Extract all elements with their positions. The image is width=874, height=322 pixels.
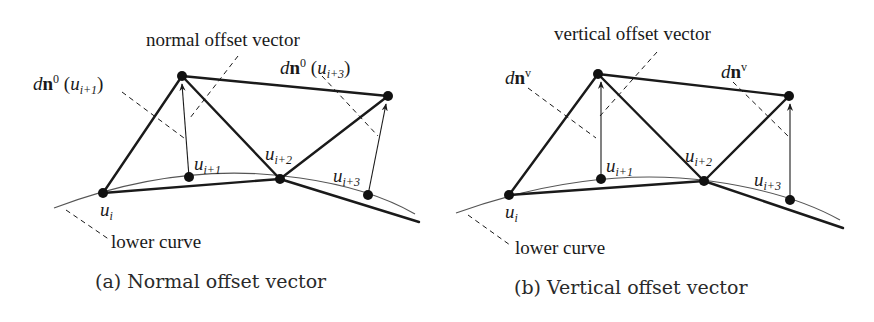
point-ui2 xyxy=(699,176,709,186)
panel-b-vertical-offset: vertical offset vector dnv dnv ui ui+1 u… xyxy=(456,23,843,298)
point-right-apex xyxy=(784,91,794,101)
point-ui1 xyxy=(596,174,606,184)
point-ui3 xyxy=(785,195,795,205)
label-lower-curve: lower curve xyxy=(515,237,605,258)
label-dnv-left: dnv xyxy=(505,66,531,88)
label-ui1: ui+1 xyxy=(194,153,221,177)
figure-canvas: normal offset vector dn0 (ui+1) dn0 (ui+… xyxy=(0,0,874,322)
point-ui1 xyxy=(184,172,194,182)
label-dn0-ui1: dn0 (ui+1) xyxy=(33,72,103,97)
edge-ui-apex xyxy=(509,74,598,195)
label-normal-offset-vector: normal offset vector xyxy=(146,29,300,50)
leader-lower-curve xyxy=(468,215,510,245)
caption-b: (b) Vertical offset vector xyxy=(514,276,748,298)
leader-dn-left xyxy=(528,88,596,138)
label-ui3: ui+3 xyxy=(333,165,360,189)
panel-a-normal-offset: normal offset vector dn0 (ui+1) dn0 (ui+… xyxy=(33,29,419,292)
edge-apex-right xyxy=(598,74,789,96)
leader-dn-right xyxy=(322,76,378,136)
offset-vector-i3 xyxy=(368,104,386,195)
point-ui3 xyxy=(363,190,373,200)
point-ui2 xyxy=(275,174,285,184)
edge-ui2-right xyxy=(704,96,789,181)
point-ui xyxy=(98,188,108,198)
leader-dn-left xyxy=(122,92,184,138)
label-lower-curve: lower curve xyxy=(111,231,201,252)
label-ui1: ui+1 xyxy=(606,155,633,179)
point-right-apex xyxy=(383,91,393,101)
label-ui: ui xyxy=(100,199,113,223)
label-ui: ui xyxy=(505,201,518,225)
point-apex xyxy=(177,71,187,81)
edge-ui-apex xyxy=(103,76,182,193)
label-ui2: ui+2 xyxy=(685,145,712,169)
point-ui xyxy=(504,190,514,200)
edge-ui-ui2 xyxy=(509,181,704,195)
point-apex xyxy=(593,69,603,79)
label-ui3: ui+3 xyxy=(754,169,781,193)
label-ui2: ui+2 xyxy=(265,143,292,167)
edge-apex-right xyxy=(182,76,388,96)
offset-vector-i1 xyxy=(182,84,189,177)
label-dnv-right: dnv xyxy=(721,60,747,82)
label-vertical-offset-vector: vertical offset vector xyxy=(554,23,712,44)
caption-a: (a) Normal offset vector xyxy=(95,270,327,292)
label-dn0-ui3: dn0 (ui+3) xyxy=(280,56,350,81)
